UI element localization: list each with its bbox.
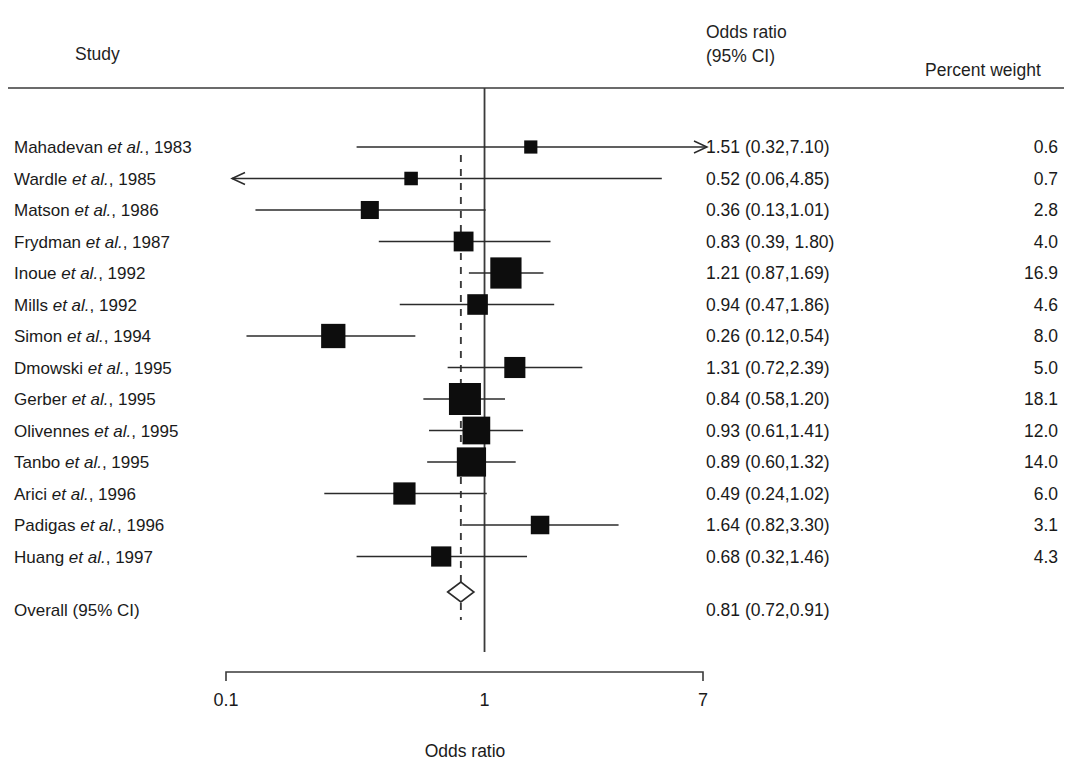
study-label: Arici et al., 1996: [14, 485, 136, 504]
effect-size-marker: [321, 324, 345, 348]
odds-ratio-value: 0.89 (0.60,1.32): [706, 452, 830, 472]
forest-row: Mahadevan et al., 19831.51 (0.32,7.10)0.…: [14, 137, 1058, 157]
odds-ratio-value: 1.21 (0.87,1.69): [706, 263, 830, 283]
study-label: Tanbo et al., 1995: [14, 453, 149, 472]
forest-row: Inoue et al., 19921.21 (0.87,1.69)16.9: [14, 257, 1058, 288]
percent-weight-value: 8.0: [1034, 326, 1059, 346]
study-label: Padigas et al., 1996: [14, 516, 164, 535]
overall-diamond: [448, 582, 474, 602]
axis-tick-0: 0.1: [213, 690, 238, 710]
forest-row: Tanbo et al., 19950.89 (0.60,1.32)14.0: [14, 447, 1058, 476]
forest-row: Gerber et al., 19950.84 (0.58,1.20)18.1: [14, 383, 1058, 415]
forest-row: Padigas et al., 19961.64 (0.82,3.30)3.1: [14, 515, 1058, 535]
forest-row: Simon et al., 19940.26 (0.12,0.54)8.0: [14, 324, 1058, 348]
header-odds-ratio-line2: (95% CI): [706, 46, 775, 66]
forest-row: Huang et al., 19970.68 (0.32,1.46)4.3: [14, 546, 1058, 566]
forest-row: Olivennes et al., 19950.93 (0.61,1.41)12…: [14, 417, 1058, 445]
percent-weight-value: 16.9: [1024, 263, 1058, 283]
odds-ratio-value: 0.52 (0.06,4.85): [706, 169, 830, 189]
effect-size-marker: [490, 257, 521, 288]
study-label: Dmowski et al., 1995: [14, 359, 172, 378]
percent-weight-value: 4.6: [1034, 295, 1058, 315]
study-label: Inoue et al., 1992: [14, 264, 145, 283]
effect-size-marker: [449, 383, 481, 415]
axis-tick-labels: 0.117: [213, 690, 708, 710]
overall-row: Overall (95% CI) 0.81 (0.72,0.91): [14, 582, 830, 620]
forest-row: Arici et al., 19960.49 (0.24,1.02)6.0: [14, 482, 1058, 504]
study-label: Gerber et al., 1995: [14, 390, 156, 409]
study-label: Wardle et al., 1985: [14, 170, 156, 189]
percent-weight-value: 5.0: [1034, 358, 1059, 378]
percent-weight-value: 0.7: [1034, 169, 1058, 189]
odds-ratio-value: 0.26 (0.12,0.54): [706, 326, 830, 346]
study-label: Mills et al., 1992: [14, 296, 137, 315]
forest-row: Dmowski et al., 19951.31 (0.72,2.39)5.0: [14, 357, 1058, 378]
effect-size-marker: [431, 546, 451, 566]
percent-weight-value: 4.3: [1034, 547, 1058, 567]
forest-row: Frydman et al., 19870.83 (0.39, 1.80)4.0: [14, 232, 1058, 252]
forest-row: Matson et al., 19860.36 (0.13,1.01)2.8: [14, 200, 1058, 220]
forest-row: Mills et al., 19920.94 (0.47,1.86)4.6: [14, 294, 1058, 315]
effect-size-marker: [467, 294, 488, 315]
percent-weight-value: 3.1: [1034, 515, 1058, 535]
x-axis: 0.117 Odds ratio: [213, 672, 708, 761]
effect-size-marker: [457, 447, 486, 476]
effect-size-marker: [531, 516, 550, 535]
percent-weight-value: 4.0: [1034, 232, 1059, 252]
odds-ratio-value: 0.49 (0.24,1.02): [706, 484, 830, 504]
percent-weight-value: 2.8: [1034, 200, 1058, 220]
odds-ratio-value: 1.64 (0.82,3.30): [706, 515, 830, 535]
overall-label: Overall (95% CI): [14, 601, 140, 620]
study-label: Matson et al., 1986: [14, 201, 159, 220]
header-odds-ratio-line1: Odds ratio: [706, 22, 787, 42]
forest-rows: Mahadevan et al., 19831.51 (0.32,7.10)0.…: [14, 137, 1058, 567]
forest-row: Wardle et al., 19850.52 (0.06,4.85)0.7: [14, 169, 1058, 189]
percent-weight-value: 12.0: [1024, 421, 1058, 441]
axis-tick-1: 1: [480, 690, 490, 710]
odds-ratio-value: 1.51 (0.32,7.10): [706, 137, 830, 157]
axis-tick-2: 7: [698, 690, 708, 710]
odds-ratio-value: 0.94 (0.47,1.86): [706, 295, 830, 315]
odds-ratio-value: 0.36 (0.13,1.01): [706, 200, 830, 220]
study-label: Olivennes et al., 1995: [14, 422, 178, 441]
percent-weight-value: 18.1: [1024, 389, 1058, 409]
forest-plot-figure: Study Odds ratio (95% CI) Percent weight…: [0, 0, 1072, 769]
percent-weight-value: 14.0: [1024, 452, 1058, 472]
overall-or-value: 0.81 (0.72,0.91): [706, 600, 830, 620]
odds-ratio-value: 0.84 (0.58,1.20): [706, 389, 830, 409]
study-label: Mahadevan et al., 1983: [14, 138, 192, 157]
odds-ratio-value: 0.68 (0.32,1.46): [706, 547, 830, 567]
odds-ratio-value: 0.83 (0.39, 1.80): [706, 232, 834, 252]
percent-weight-value: 0.6: [1034, 137, 1058, 157]
effect-size-marker: [463, 417, 491, 445]
odds-ratio-value: 1.31 (0.72,2.39): [706, 358, 830, 378]
study-label: Huang et al., 1997: [14, 548, 153, 567]
effect-size-marker: [404, 172, 418, 186]
header-percent-weight: Percent weight: [925, 60, 1041, 80]
study-label: Frydman et al., 1987: [14, 233, 170, 252]
axis-line-with-ticks: [226, 672, 703, 681]
header-study: Study: [75, 44, 120, 64]
effect-size-marker: [393, 482, 415, 504]
percent-weight-value: 6.0: [1034, 484, 1059, 504]
effect-size-marker: [361, 201, 379, 219]
effect-size-marker: [454, 232, 474, 252]
study-label: Simon et al., 1994: [14, 327, 151, 346]
x-axis-title: Odds ratio: [425, 741, 506, 761]
effect-size-marker: [504, 357, 525, 378]
odds-ratio-value: 0.93 (0.61,1.41): [706, 421, 830, 441]
effect-size-marker: [524, 140, 537, 153]
